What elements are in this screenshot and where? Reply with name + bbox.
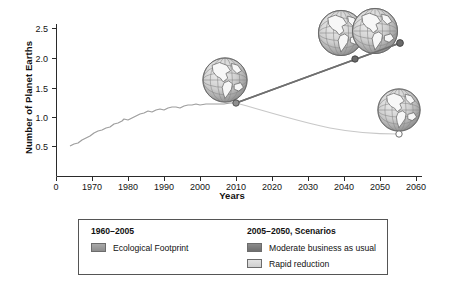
y-tick-2.0: 2.0 <box>35 54 48 64</box>
y-tick-1.0: 1.0 <box>35 113 48 123</box>
legend-scenarios-title: 2005–2050, Scenarios <box>247 226 387 236</box>
series-rapid-reduction-line <box>236 103 398 134</box>
globe-2005-icon <box>203 58 247 102</box>
bau-2050-marker <box>397 40 404 47</box>
series-ecological-footprint-line <box>70 103 236 146</box>
footprint-2005-marker <box>233 100 239 106</box>
legend-label-moderate-bau: Moderate business as usual <box>269 243 376 253</box>
legend-swatch-ecological-footprint <box>91 243 106 252</box>
legend-historical-title: 1960–2005 <box>91 226 251 236</box>
x-axis-title-text: Years <box>219 190 244 201</box>
y-tick-1.5: 1.5 <box>35 84 48 94</box>
y-tick-2.5: 2.5 <box>35 24 48 34</box>
legend-item-moderate-bau: Moderate business as usual <box>247 242 387 253</box>
legend-label-ecological-footprint: Ecological Footprint <box>113 243 188 253</box>
legend-swatch-moderate-bau <box>247 243 262 252</box>
globe-rapid-icon <box>378 89 420 131</box>
bau-2038-marker <box>352 56 358 62</box>
chart-figure: 2.5 2.0 1.5 1.0 0.5 0 1970 1980 1990 200… <box>0 0 468 287</box>
rapid-2050-marker <box>396 131 402 137</box>
legend-item-rapid-reduction: Rapid reduction <box>247 258 387 269</box>
series-moderate-bau-overlay <box>236 43 400 103</box>
legend-group-historical: 1960–2005 Ecological Footprint <box>91 226 251 258</box>
legend-group-scenarios: 2005–2050, Scenarios Moderate business a… <box>247 226 387 274</box>
x-axis-title: Years <box>0 190 464 201</box>
legend-swatch-rapid-reduction <box>247 259 262 268</box>
legend-item-ecological-footprint: Ecological Footprint <box>91 242 251 253</box>
chart-legend: 1960–2005 Ecological Footprint 2005–2050… <box>78 219 388 275</box>
y-tick-0.5: 0.5 <box>35 142 48 152</box>
y-axis-title: Number of Planet Earths <box>23 18 34 178</box>
y-axis: 2.5 2.0 1.5 1.0 0.5 <box>35 24 56 177</box>
legend-label-rapid-reduction: Rapid reduction <box>269 259 329 269</box>
